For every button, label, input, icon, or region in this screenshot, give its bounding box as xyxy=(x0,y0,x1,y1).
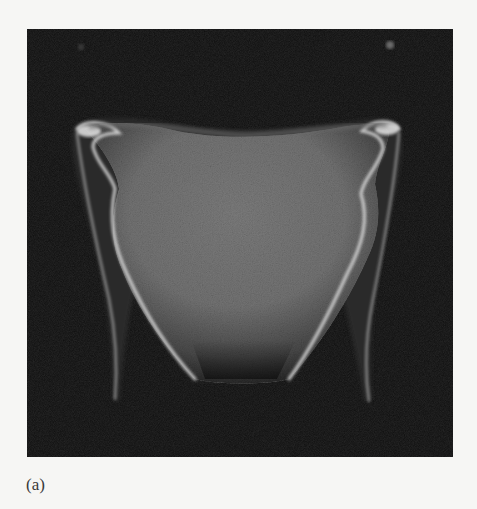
speck-right xyxy=(386,41,394,49)
cross-section-graphic xyxy=(27,29,453,457)
panel-label: (a) xyxy=(26,476,45,493)
bleed-through-text xyxy=(320,492,324,507)
tomography-image xyxy=(27,29,453,457)
speck-left xyxy=(78,44,84,50)
bleed-through-text xyxy=(160,462,164,477)
figure-page: (a) xyxy=(0,0,477,509)
